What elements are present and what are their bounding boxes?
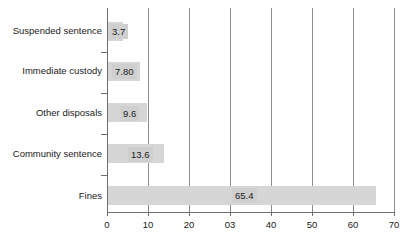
y-axis-tick — [101, 93, 107, 94]
x-axis-tick — [189, 212, 190, 216]
x-axis-tick — [271, 212, 272, 216]
x-axis-label-10: 10 — [135, 219, 161, 231]
x-axis-tick — [353, 212, 354, 216]
bar-chart: Suspended sentence Immediate custody Oth… — [0, 0, 408, 252]
x-axis-label-30: 03 — [217, 219, 243, 231]
x-axis-label-60: 60 — [340, 219, 366, 231]
x-axis-tick — [394, 212, 395, 216]
bar-value-other-disposals: 9.6 — [120, 106, 139, 121]
category-label-other-disposals: Other disposals — [36, 107, 102, 119]
x-axis-label-70: 70 — [381, 219, 407, 231]
x-axis-tick — [148, 212, 149, 216]
bar-value-fines: 65.4 — [232, 188, 257, 203]
bar-value-suspended-sentence: 3.7 — [109, 24, 128, 39]
y-axis-tick — [101, 134, 107, 135]
gridline — [271, 8, 272, 212]
y-axis-tick — [101, 175, 107, 176]
y-axis-line — [107, 8, 108, 212]
category-label-immediate-custody: Immediate custody — [22, 65, 102, 77]
gridline — [353, 8, 354, 212]
category-label-fines: Fines — [79, 190, 102, 202]
x-axis-line — [107, 212, 395, 213]
bar-value-community-sentence: 13.6 — [128, 147, 153, 162]
gridline — [148, 8, 149, 212]
x-axis-tick — [312, 212, 313, 216]
x-axis-label-0: 0 — [94, 219, 120, 231]
gridline — [394, 8, 395, 212]
gridline — [189, 8, 190, 212]
gridline — [230, 8, 231, 212]
x-axis-tick — [230, 212, 231, 216]
x-axis-label-40: 40 — [258, 219, 284, 231]
y-axis-tick — [101, 52, 107, 53]
x-axis-tick — [107, 212, 108, 216]
category-label-suspended-sentence: Suspended sentence — [13, 25, 102, 37]
bar-value-immediate-custody: 7.80 — [112, 64, 137, 79]
x-axis-label-50: 50 — [299, 219, 325, 231]
x-axis-label-20: 20 — [176, 219, 202, 231]
gridline — [312, 8, 313, 212]
category-label-community-sentence: Community sentence — [13, 148, 102, 160]
